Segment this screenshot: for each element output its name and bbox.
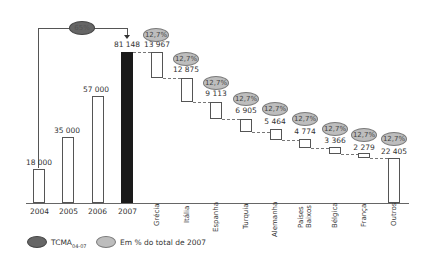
connector-7 — [341, 154, 359, 155]
value-label-2007: 81 148 — [110, 40, 144, 49]
connector-0 — [133, 52, 151, 53]
cagr-bracket-left — [38, 28, 39, 168]
connector-6 — [311, 148, 329, 149]
connector-2 — [193, 102, 211, 103]
x-label-2007: 2007 — [118, 207, 137, 216]
connector-1 — [163, 78, 181, 79]
value-label-2004: 18 000 — [22, 158, 56, 167]
bar-france — [358, 153, 370, 158]
x-label-turkey: Turquia — [242, 203, 250, 229]
x-label-italy: Itália — [183, 206, 191, 223]
bar-2005 — [62, 137, 74, 203]
x-label-2004: 2004 — [30, 207, 49, 216]
value-label-greece: 13 967 — [140, 40, 174, 49]
share-bubble-spain: 12,7% — [203, 76, 229, 90]
bar-italy — [181, 78, 193, 102]
x-label-germany: Alemanha — [271, 202, 279, 237]
connector-5 — [282, 140, 300, 141]
x-label-greece: Grécia — [153, 203, 161, 226]
value-label-netherlands: 4 774 — [288, 127, 322, 136]
legend-tcma-subscript: 04-07 — [72, 243, 87, 249]
value-label-italy: 12 875 — [169, 65, 203, 74]
bar-spain — [210, 102, 222, 119]
bar-2004 — [33, 169, 45, 203]
share-bubble-germany: 12,7% — [262, 102, 288, 116]
value-label-others: 22 405 — [377, 147, 411, 156]
value-label-germany: 5 464 — [258, 117, 292, 126]
value-label-france: 2 279 — [347, 143, 381, 152]
share-bubble-others: 12,7% — [381, 132, 407, 146]
x-label-spain: Espanha — [212, 202, 220, 232]
x-label-2005: 2005 — [59, 207, 78, 216]
cagr-bubble: 65% — [69, 21, 95, 35]
value-label-2006: 57 000 — [79, 85, 113, 94]
x-label-others: Outros — [390, 203, 398, 226]
bar-greece — [151, 52, 163, 78]
connector-8 — [370, 158, 388, 159]
connector-3 — [222, 119, 240, 120]
bar-netherlands — [299, 139, 311, 148]
bar-belgium — [329, 147, 341, 154]
value-label-2005: 35 000 — [50, 126, 84, 135]
bar-others — [388, 158, 400, 203]
share-bubble-belgium: 12,7% — [322, 122, 348, 136]
x-label-france: França — [360, 204, 368, 227]
bar-2006 — [92, 96, 104, 203]
arrow-down-icon — [124, 35, 130, 39]
legend-label-tcma: TCMA04-07 — [51, 238, 87, 249]
waterfall-chart: 65% 18 000 35 000 57 000 81 148 12,7% 13… — [0, 0, 434, 269]
share-bubble-france: 12,7% — [351, 128, 377, 142]
legend-tcma-text: TCMA — [51, 238, 72, 247]
x-label-2006: 2006 — [88, 207, 107, 216]
bar-2007 — [121, 52, 133, 203]
x-label-belgium: Bélgica — [331, 202, 339, 228]
value-label-spain: 9 113 — [199, 89, 233, 98]
share-bubble-italy: 12,7% — [173, 52, 199, 66]
legend-swatch-share — [96, 236, 116, 248]
share-bubble-turkey: 12,7% — [233, 92, 259, 106]
share-bubble-netherlands: 12,7% — [292, 112, 318, 126]
bar-germany — [270, 129, 282, 140]
bar-turkey — [240, 119, 252, 132]
legend-swatch-tcma — [27, 236, 47, 248]
legend-label-share: Em % do total de 2007 — [120, 238, 206, 247]
connector-4 — [252, 132, 270, 133]
x-label-netherlands-2: Baixos — [305, 205, 313, 228]
x-label-netherlands-1: Países — [297, 206, 305, 228]
value-label-turkey: 6 905 — [229, 106, 263, 115]
